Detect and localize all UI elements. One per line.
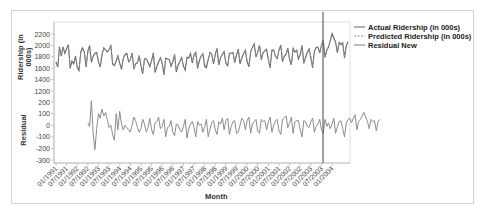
y-tick-label: 100 [38, 110, 50, 117]
legend-item-residual[interactable]: Residual New [354, 41, 417, 50]
x-axis-ticks: 01/199107/199101/199207/199201/199307/19… [36, 163, 335, 188]
y-tick-label: 1200 [34, 88, 50, 95]
predicted-ridership-line [56, 36, 348, 74]
top-y-axis-title-line2: 000s) [24, 47, 33, 67]
y-tick-label: -100 [36, 133, 50, 140]
plot-area-border [54, 22, 350, 163]
x-axis-title: Month [205, 192, 228, 201]
legend-label: Actual Ridership (in 000s) [368, 23, 461, 32]
ridership-chart: 120014001600180020002200 -300-200-100010… [0, 0, 482, 213]
residual-line [88, 101, 380, 150]
legend-label: Residual New [368, 41, 417, 50]
y-tick-label: -300 [36, 157, 50, 164]
y-tick-label: 1600 [34, 65, 50, 72]
y-tick-label: 200 [38, 99, 50, 106]
y-tick-label: 1400 [34, 76, 50, 83]
legend-item-actual[interactable]: Actual Ridership (in 000s) [354, 23, 461, 32]
y-tick-label: 1800 [34, 53, 50, 60]
legend-item-predicted[interactable]: Predicted Ridership (in 000s) [354, 32, 472, 41]
y-tick-label: 2200 [34, 31, 50, 38]
legend: Actual Ridership (in 000s) Predicted Rid… [354, 23, 472, 50]
legend-label: Predicted Ridership (in 000s) [368, 32, 472, 41]
bottom-y-axis-ticks: -300-200-1000100200 [36, 99, 54, 164]
y-tick-label: 0 [46, 122, 50, 129]
y-tick-label: -200 [36, 145, 50, 152]
bottom-y-axis-title: Residual [19, 114, 28, 145]
top-y-axis-ticks: 120014001600180020002200 [34, 31, 54, 95]
y-tick-label: 2000 [34, 42, 50, 49]
